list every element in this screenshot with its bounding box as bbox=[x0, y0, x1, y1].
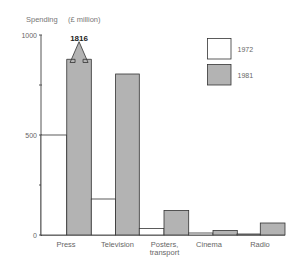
x-axis-labels: PressTelevisionPosters,transportCinemaRa… bbox=[56, 240, 269, 257]
bar-value-annotation: 1816 bbox=[70, 34, 88, 43]
bar-chart: Spending (£ million) 05001000 1816 Press… bbox=[0, 0, 302, 269]
y-tick-label: 0 bbox=[33, 232, 37, 239]
x-tick-label: transport bbox=[150, 248, 181, 257]
bar-1972-posters-transport bbox=[139, 228, 164, 235]
bar-1981-television bbox=[116, 74, 140, 235]
bar-1981-cinema bbox=[213, 230, 237, 235]
bar-1972-radio bbox=[237, 234, 260, 235]
x-tick-label: Press bbox=[56, 240, 75, 249]
y-tick-label: 1000 bbox=[21, 32, 37, 39]
legend-label-1972: 1972 bbox=[238, 46, 254, 53]
legend: 19721981 bbox=[208, 39, 254, 86]
bar-1981-radio bbox=[260, 223, 285, 235]
bar-1972-press bbox=[41, 135, 67, 235]
x-tick-label: Television bbox=[101, 240, 134, 249]
bars: 1816 bbox=[41, 34, 285, 235]
legend-swatch-1981 bbox=[208, 65, 232, 86]
bar-1981-press bbox=[67, 42, 92, 235]
x-tick-label: Radio bbox=[250, 240, 270, 249]
y-axis-unit-label: (£ million) bbox=[68, 15, 101, 24]
legend-label-1981: 1981 bbox=[238, 72, 254, 79]
legend-swatch-1972 bbox=[208, 39, 232, 60]
y-tick-label: 500 bbox=[25, 132, 37, 139]
chart-title: Spending bbox=[26, 15, 58, 24]
bar-1972-television bbox=[91, 199, 115, 235]
x-tick-label: Cinema bbox=[196, 240, 223, 249]
bar-1972-cinema bbox=[189, 233, 213, 235]
bar-1981-posters-transport bbox=[164, 210, 189, 235]
